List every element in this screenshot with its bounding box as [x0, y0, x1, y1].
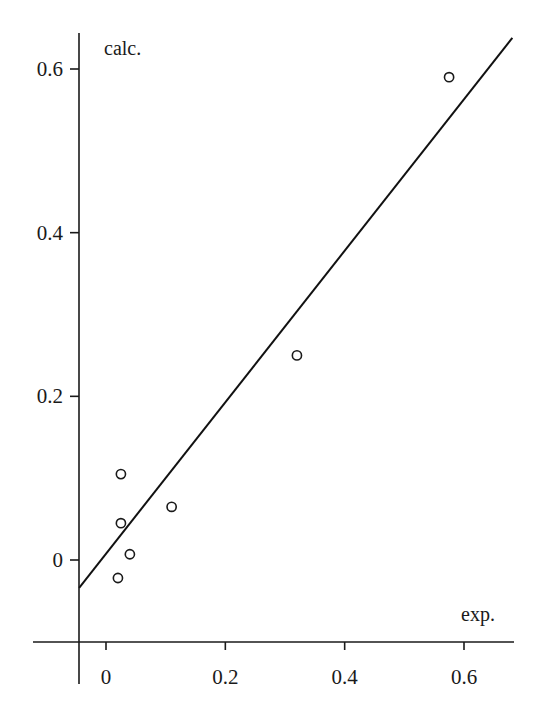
y-axis-title: calc. — [104, 37, 141, 59]
x-tick-label: 0.6 — [451, 665, 477, 689]
data-point-marker — [444, 73, 453, 82]
y-axis: 00.20.40.6 calc. — [37, 33, 141, 684]
scatter-chart: 00.20.40.6 calc. 00.20.40.6 exp. — [0, 0, 538, 718]
data-point-marker — [116, 519, 125, 528]
data-point-marker — [113, 573, 122, 582]
y-tick-label: 0.4 — [37, 221, 64, 245]
data-point-marker — [167, 502, 176, 511]
y-tick-label: 0.2 — [37, 384, 63, 408]
data-point-marker — [292, 351, 301, 360]
x-ticks: 00.20.40.6 — [101, 642, 477, 689]
y-ticks: 00.20.40.6 — [37, 57, 79, 572]
x-axis-title: exp. — [461, 603, 495, 626]
data-point-marker — [116, 469, 125, 478]
x-axis: 00.20.40.6 exp. — [33, 603, 514, 689]
y-tick-label: 0.6 — [37, 57, 63, 81]
x-tick-label: 0.4 — [332, 665, 359, 689]
regression-line — [79, 38, 512, 588]
data-point-marker — [125, 550, 134, 559]
x-tick-label: 0 — [101, 665, 112, 689]
y-tick-label: 0 — [53, 548, 64, 572]
x-tick-label: 0.2 — [212, 665, 238, 689]
